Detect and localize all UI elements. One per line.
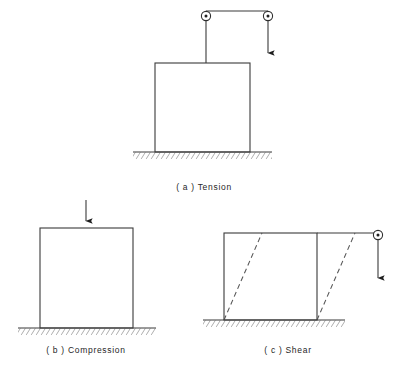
panel-tension: ( a ) Tension [133,11,273,192]
tension-block [155,63,250,152]
tension-ground [133,152,272,159]
panel-compression: ( b ) Compression [18,200,156,355]
left-pulley-icon [201,11,210,20]
compression-ground [18,328,156,335]
caption-tension: ( a ) Tension [176,182,232,192]
shear-dashed-right [317,233,355,320]
caption-compression: ( b ) Compression [46,345,125,355]
shear-block [224,233,317,320]
shear-ground [203,320,345,327]
loading-types-diagram: ( a ) Tension ( b ) Compression [0,0,398,369]
right-pulley-icon [263,11,272,20]
compression-block [40,228,133,328]
shear-pulley-icon [373,230,382,239]
tension-rope [206,11,268,64]
caption-shear: ( c ) Shear [264,345,311,355]
tension-pulleys [201,11,272,20]
panel-shear: ( c ) Shear [203,230,383,355]
